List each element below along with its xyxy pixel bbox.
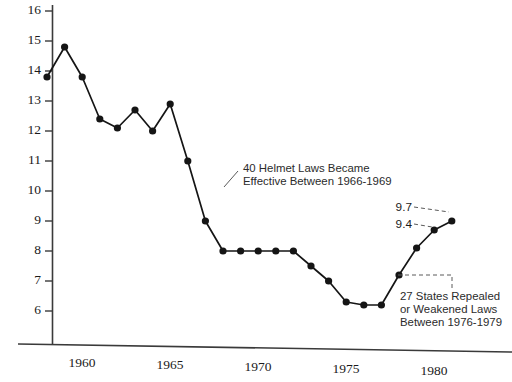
annotation-repeal: 27 States Repealed or Weakened Laws Betw…	[398, 275, 502, 328]
y-tick-label: 14	[28, 62, 42, 77]
y-tick-label: 7	[34, 272, 41, 287]
data-label-leader	[414, 224, 432, 227]
data-point	[202, 217, 209, 224]
data-point	[167, 100, 174, 107]
data-point	[272, 247, 279, 254]
annotation-line-2: or Weakened Laws	[400, 303, 498, 315]
annotation-line-3: Between 1976-1979	[400, 316, 502, 328]
data-point	[325, 277, 332, 284]
data-point	[184, 157, 191, 164]
data-point	[237, 247, 244, 254]
annotation-bracket	[398, 275, 452, 288]
annotation-helmet-laws: 40 Helmet Laws Became Effective Between …	[224, 162, 392, 187]
data-point	[343, 298, 350, 305]
data-label-9-7: 9.7	[396, 200, 412, 214]
data-point	[360, 301, 367, 308]
data-point	[131, 106, 138, 113]
data-point	[448, 217, 455, 224]
x-tick-label: 1980	[421, 363, 448, 378]
annotation-leader-line	[224, 171, 238, 187]
data-point	[290, 247, 297, 254]
data-point	[413, 244, 420, 251]
data-label-leader	[414, 207, 449, 212]
y-tick-label: 13	[28, 92, 42, 107]
data-point	[61, 43, 68, 50]
x-tick-label: 1960	[69, 355, 96, 370]
x-tick-label: 1975	[333, 361, 360, 376]
data-point	[255, 247, 262, 254]
data-label-9-4: 9.4	[396, 217, 413, 231]
data-point	[114, 124, 121, 131]
y-tick-label: 16	[28, 2, 42, 17]
data-point	[79, 73, 86, 80]
data-point	[43, 73, 50, 80]
y-tick-label: 10	[28, 182, 42, 197]
x-tick-label: 1970	[245, 359, 272, 374]
chart-canvas: 16 15 14 13 12 11 10 9 8 7 6 1960 1965 1…	[0, 0, 512, 382]
y-axis: 16 15 14 13 12 11 10 9 8 7 6	[28, 2, 53, 345]
data-point	[378, 301, 385, 308]
x-axis: 1960 1965 1970 1975 1980	[18, 344, 512, 378]
line-chart: 16 15 14 13 12 11 10 9 8 7 6 1960 1965 1…	[0, 0, 512, 382]
x-tick-labels: 1960 1965 1970 1975 1980	[69, 355, 448, 378]
data-point	[149, 127, 156, 134]
y-tick-label: 11	[28, 152, 41, 167]
annotation-line-2: Effective Between 1966-1969	[243, 175, 392, 187]
data-point	[431, 226, 438, 233]
y-tick-labels: 16 15 14 13 12 11 10 9 8 7 6	[28, 2, 42, 317]
y-tick-label: 6	[34, 302, 41, 317]
y-tick-label: 9	[34, 212, 41, 227]
y-tick-label: 12	[28, 122, 42, 137]
y-tick-marks	[45, 11, 52, 311]
data-point	[307, 262, 314, 269]
data-point	[96, 115, 103, 122]
x-axis-line	[18, 344, 512, 352]
y-tick-label: 8	[34, 242, 41, 257]
annotation-line-1: 27 States Repealed	[400, 290, 500, 302]
y-tick-label: 15	[28, 32, 42, 47]
x-tick-label: 1965	[157, 357, 184, 372]
annotation-line-1: 40 Helmet Laws Became	[243, 162, 370, 174]
data-point	[219, 247, 226, 254]
